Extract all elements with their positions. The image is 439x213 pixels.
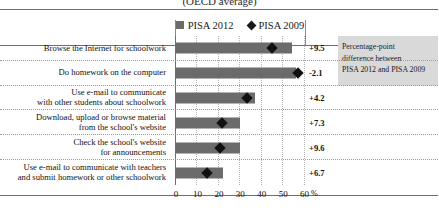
bar-pisa-2012 — [176, 142, 240, 153]
row-plot — [175, 160, 305, 185]
row-plot — [175, 110, 305, 135]
x-axis: 0 10 20 30 40 50 60 % — [0, 186, 438, 212]
chart-title: (OECD average) — [0, 0, 439, 7]
difference-value: +4.2 — [306, 86, 338, 111]
bar-pisa-2012 — [176, 68, 296, 79]
bar-pisa-2012 — [176, 167, 223, 178]
category-label-line1: Browse the Internet for schoolwork — [44, 44, 166, 54]
category-label: Browse the Internet for schoolwork — [2, 36, 170, 61]
x-axis-unit-label: % — [311, 189, 318, 198]
chart-row: Browse the Internet for schoolwork +9.5 — [0, 36, 438, 61]
chart-figure: (OECD average) PISA 2012 PISA 2009 Perce… — [0, 0, 439, 213]
legend-label-pisa-2009: PISA 2009 — [259, 20, 305, 31]
diamond-marker-icon — [246, 20, 256, 30]
category-label-line2: from the school's website — [79, 123, 166, 133]
category-label: Check the school's website for announcem… — [2, 135, 170, 160]
x-tick-30: 30 — [236, 189, 245, 199]
category-label-line1: Do homework on the computer — [59, 68, 166, 78]
difference-value: -2.1 — [306, 61, 338, 86]
category-label: Use e-mail to communicate with other stu… — [2, 86, 170, 111]
difference-value: +9.5 — [306, 36, 338, 61]
chart-row: Use e-mail to communicate with teachers … — [0, 160, 438, 185]
x-tick-0: 0 — [174, 189, 179, 199]
difference-value: +6.7 — [306, 160, 338, 185]
chart-row: Do homework on the computer -2.1 — [0, 61, 438, 86]
chart-row: Download, upload or browse material from… — [0, 110, 438, 135]
category-label-line2: and submit homework or other schoolwork — [18, 173, 166, 183]
square-marker-icon — [176, 21, 184, 29]
category-label-line2: for announcements — [100, 148, 166, 158]
legend-item-pisa-2012: PISA 2012 — [176, 20, 234, 31]
x-tick-20: 20 — [214, 189, 223, 199]
difference-value: +9.6 — [306, 135, 338, 160]
category-label: Use e-mail to communicate with teachers … — [2, 160, 170, 185]
chart-row: Use e-mail to communicate with other stu… — [0, 86, 438, 111]
row-plot — [175, 135, 305, 160]
chart-legend: PISA 2012 PISA 2009 — [176, 15, 304, 35]
chart-rows: Browse the Internet for schoolwork +9.5 … — [0, 36, 438, 185]
category-label: Download, upload or browse material from… — [2, 110, 170, 135]
x-tick-40: 40 — [257, 189, 266, 199]
row-plot — [175, 61, 305, 86]
legend-label-pisa-2012: PISA 2012 — [188, 20, 234, 31]
difference-value: +7.3 — [306, 110, 338, 135]
category-label-line2: with other students about schoolwork — [37, 98, 166, 108]
row-plot — [175, 86, 305, 111]
chart-row: Check the school's website for announcem… — [0, 135, 438, 160]
legend-item-pisa-2009: PISA 2009 — [248, 20, 305, 31]
bar-pisa-2012 — [176, 117, 240, 128]
row-plot — [175, 36, 305, 61]
x-tick-60: 60 — [300, 189, 309, 199]
x-tick-10: 10 — [193, 189, 202, 199]
x-tick-50: 50 — [279, 189, 288, 199]
category-label: Do homework on the computer — [2, 61, 170, 86]
